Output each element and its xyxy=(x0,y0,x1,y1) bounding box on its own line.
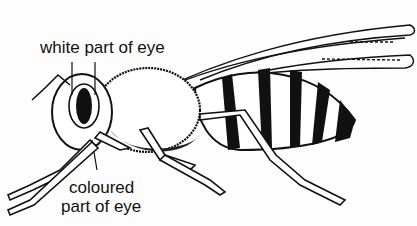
wasp-drawing xyxy=(0,0,417,226)
wasp-illustration: white part of eye coloured part of eye xyxy=(0,0,417,226)
label-white-part-of-eye: white part of eye xyxy=(40,38,165,57)
label-coloured-line2: part of eye xyxy=(61,197,141,216)
eye-coloured xyxy=(76,88,92,124)
abdomen xyxy=(195,68,355,150)
label-coloured-line1: coloured xyxy=(69,178,134,197)
